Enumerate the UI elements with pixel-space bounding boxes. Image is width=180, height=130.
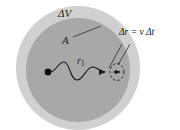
inner-sphere-circle [26, 18, 130, 122]
label-area: A [62, 35, 69, 46]
label-radius-r1: r1 [77, 56, 85, 68]
diagram-canvas [0, 0, 180, 130]
label-delta-volume: ΔV [58, 8, 71, 19]
physics-diagram-figure: ΔV A r1 Δr = v Δt [0, 0, 180, 130]
label-displacement: Δr = v Δt [119, 28, 154, 38]
label-radius-subscript: 1 [81, 60, 85, 68]
